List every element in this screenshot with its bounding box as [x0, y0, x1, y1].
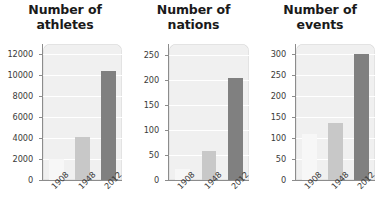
y-tick-label: 10000	[7, 70, 33, 80]
chart-title-events: Number of events	[257, 0, 383, 38]
y-tick-label: 0	[28, 175, 33, 185]
chart-panel-events: Number of events 050100150200250300 1908…	[257, 0, 383, 220]
y-tick-mark	[292, 75, 295, 76]
y-tick-mark	[165, 105, 168, 106]
y-tick-mark	[39, 159, 42, 160]
y-axis-labels-athletes: 020004000600080001000012000	[0, 38, 38, 220]
gridline	[43, 54, 122, 55]
y-tick-mark	[39, 180, 42, 181]
y-tick-mark	[292, 159, 295, 160]
plot-wrapper-events: 050100150200250300 190819482012	[257, 38, 383, 220]
y-tick-label: 100	[271, 133, 286, 143]
y-tick-label: 0	[281, 175, 286, 185]
y-tick-mark	[39, 75, 42, 76]
y-tick-mark	[292, 138, 295, 139]
plot-wrapper-nations: 050100150200250 190819482012	[130, 38, 257, 220]
chart-title-athletes: Number of athletes	[0, 0, 130, 38]
y-tick-label: 2000	[13, 154, 33, 164]
y-tick-label: 150	[144, 100, 159, 110]
y-tick-mark	[165, 155, 168, 156]
y-axis-line	[295, 44, 296, 180]
y-tick-mark	[292, 54, 295, 55]
y-tick-mark	[165, 80, 168, 81]
y-tick-mark	[292, 180, 295, 181]
y-tick-label: 300	[271, 49, 286, 59]
chart-title-nations: Number of nations	[130, 0, 257, 38]
y-tick-mark	[165, 130, 168, 131]
plot-area-athletes	[43, 44, 122, 180]
y-tick-label: 12000	[7, 49, 33, 59]
chart-panel-athletes: Number of athletes 020004000600080001000…	[0, 0, 130, 220]
chart-panel-nations: Number of nations 050100150200250 190819…	[130, 0, 257, 220]
y-tick-mark	[39, 54, 42, 55]
y-tick-label: 100	[144, 125, 159, 135]
y-tick-mark	[165, 55, 168, 56]
y-tick-mark	[39, 96, 42, 97]
y-tick-label: 200	[144, 75, 159, 85]
y-tick-label: 50	[149, 150, 159, 160]
y-tick-label: 200	[271, 91, 286, 101]
figure-three-bar-charts: Number of athletes 020004000600080001000…	[0, 0, 383, 220]
bar-athletes-2012	[101, 71, 116, 180]
y-tick-label: 250	[144, 50, 159, 60]
y-tick-label: 50	[276, 154, 286, 164]
gridline	[169, 55, 249, 56]
y-tick-mark	[39, 117, 42, 118]
bar-nations-2012	[228, 78, 243, 180]
y-axis-line	[42, 44, 43, 180]
y-tick-mark	[165, 180, 168, 181]
y-tick-label: 4000	[13, 133, 33, 143]
y-tick-label: 6000	[13, 112, 33, 122]
y-axis-labels-events: 050100150200250300	[257, 38, 291, 220]
y-tick-mark	[39, 138, 42, 139]
y-axis-labels-nations: 050100150200250	[130, 38, 164, 220]
plot-area-events	[296, 44, 375, 180]
plot-wrapper-athletes: 020004000600080001000012000 190819482012	[0, 38, 130, 220]
y-tick-label: 150	[271, 112, 286, 122]
y-tick-label: 250	[271, 70, 286, 80]
y-tick-label: 8000	[13, 91, 33, 101]
y-axis-line	[168, 44, 169, 180]
y-tick-label: 0	[154, 175, 159, 185]
bar-events-2012	[354, 54, 369, 180]
y-tick-mark	[292, 96, 295, 97]
y-tick-mark	[292, 117, 295, 118]
plot-area-nations	[169, 44, 249, 180]
